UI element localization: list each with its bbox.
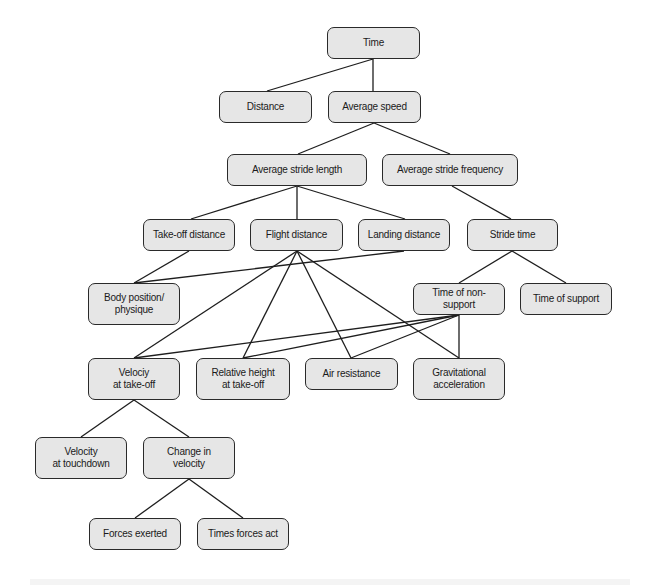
node-stride-time: Stride time	[467, 219, 558, 251]
connector-line	[81, 400, 134, 437]
connector-line	[134, 400, 189, 437]
connector-line	[351, 315, 459, 358]
node-average-stride-length: Average stride length	[227, 154, 367, 186]
connector-line	[512, 251, 566, 283]
node-air-resistance: Air resistance	[305, 358, 398, 390]
connector-line	[191, 186, 297, 219]
node-change-in-velocity: Change in velocity	[143, 437, 235, 479]
connector-line	[135, 479, 189, 518]
node-relative-height-at-take-off: Relative height at take-off	[196, 358, 290, 400]
node-time: Time	[327, 27, 420, 59]
connector-line	[134, 251, 189, 283]
connector-line	[452, 186, 511, 219]
node-forces-exerted: Forces exerted	[89, 518, 181, 550]
connector-line	[374, 123, 450, 154]
node-times-forces-act: Times forces act	[197, 518, 289, 550]
connector-line	[134, 315, 459, 358]
connector-line	[297, 251, 351, 358]
connector-line	[243, 251, 297, 358]
connector-line	[189, 479, 243, 518]
node-landing-distance: Landing distance	[358, 219, 450, 251]
node-velocity-at-touchdown: Velocity at touchdown	[35, 437, 127, 479]
node-time-of-support: Time of support	[520, 283, 612, 315]
footer-band	[30, 579, 630, 585]
connector-line	[267, 59, 373, 91]
node-velocity-at-take-off: Velociy at take-off	[88, 358, 180, 400]
node-take-off-distance: Take-off distance	[143, 219, 235, 251]
connector-line	[134, 251, 404, 283]
node-gravitational-acceleration: Gravitational acceleration	[413, 358, 505, 400]
node-flight-distance: Flight distance	[250, 219, 343, 251]
connector-line	[243, 315, 459, 358]
node-average-stride-frequency: Average stride frequency	[382, 154, 518, 186]
connector-line	[459, 251, 512, 283]
node-distance: Distance	[219, 91, 312, 123]
node-time-of-non-support: Time of non-support	[413, 283, 505, 315]
diagram-canvas: Time Distance Average speed Average stri…	[0, 0, 646, 585]
connector-line	[298, 123, 374, 154]
node-body-position-physique: Body position/ physique	[88, 283, 180, 325]
node-average-speed: Average speed	[328, 91, 421, 123]
connector-line	[297, 186, 405, 219]
